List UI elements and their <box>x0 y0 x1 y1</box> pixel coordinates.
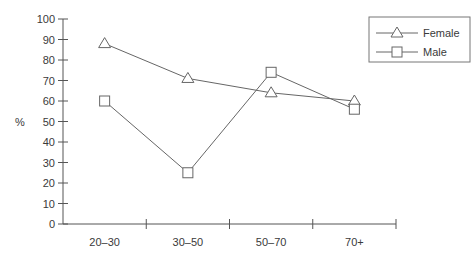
legend-box <box>369 17 470 62</box>
y-tick-label: 30 <box>43 157 55 169</box>
triangle-marker-icon <box>182 72 194 82</box>
series-line <box>105 72 355 172</box>
y-tick-label: 0 <box>49 218 55 230</box>
x-tick-label: 20–30 <box>89 236 120 248</box>
line-chart: 0102030405060708090100 20–3030–5050–7070… <box>0 0 476 261</box>
y-tick-label: 80 <box>43 54 55 66</box>
x-tick-label: 70+ <box>345 236 364 248</box>
x-tick-label: 50–70 <box>256 236 287 248</box>
square-marker-icon <box>100 96 110 106</box>
y-tick-label: 60 <box>43 95 55 107</box>
y-tick-label: 40 <box>43 136 55 148</box>
legend-label: Male <box>423 46 447 58</box>
square-marker-icon <box>392 47 402 57</box>
y-tick-label: 50 <box>43 116 55 128</box>
series-male <box>100 67 360 177</box>
y-tick-label: 10 <box>43 198 55 210</box>
square-marker-icon <box>183 168 193 178</box>
y-tick-label: 70 <box>43 75 55 87</box>
square-marker-icon <box>266 67 276 77</box>
x-tick-label: 30–50 <box>173 236 204 248</box>
x-axis: 20–3030–5050–7070+ <box>63 219 396 248</box>
y-axis: 0102030405060708090100 <box>37 13 68 230</box>
square-marker-icon <box>349 104 359 114</box>
legend: FemaleMale <box>369 17 470 62</box>
y-tick-label: 20 <box>43 177 55 189</box>
y-tick-label: 90 <box>43 34 55 46</box>
triangle-marker-icon <box>348 95 360 105</box>
series-layer <box>99 38 361 178</box>
triangle-marker-icon <box>99 38 111 48</box>
y-axis-label: % <box>15 116 25 128</box>
legend-label: Female <box>423 27 460 39</box>
y-tick-label: 100 <box>37 13 55 25</box>
